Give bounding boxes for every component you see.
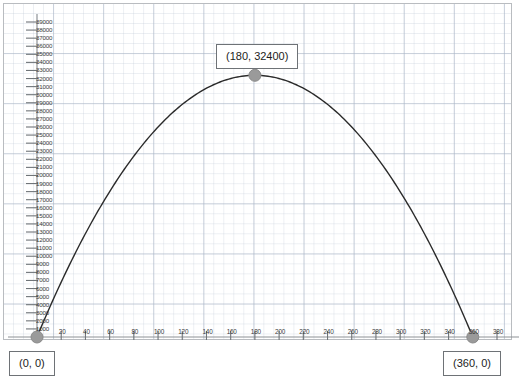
x-tick-label: 320: [420, 329, 430, 335]
y-tick-label: 12000: [36, 237, 52, 243]
x-tick-label: 280: [372, 329, 382, 335]
y-tick-label: 39000: [36, 19, 52, 25]
y-tick-label: 7000: [36, 277, 49, 283]
x-tick-label: 300: [396, 329, 406, 335]
parabola-curve: [37, 75, 473, 337]
y-tick-label: 9000: [36, 261, 49, 267]
y-tick-label: 10000: [36, 253, 52, 259]
callout-root: (360, 0): [443, 351, 501, 376]
x-tick-label: 340: [445, 329, 455, 335]
y-tick-label: 11000: [36, 245, 52, 251]
y-tick-label: 25000: [36, 132, 52, 138]
x-tick-label: 160: [227, 329, 237, 335]
y-tick-label: 6000: [36, 285, 49, 291]
x-tick-label: 140: [202, 329, 212, 335]
data-point-vertex[interactable]: [249, 69, 261, 81]
chart-canvas: 1000200030004000500060007000800090001000…: [0, 0, 528, 386]
callout-origin: (0, 0): [9, 351, 55, 376]
x-tick-label: 180: [251, 329, 261, 335]
y-tick-label: 3000: [36, 310, 49, 316]
y-tick-label: 15000: [36, 213, 52, 219]
y-tick-label: 31000: [36, 84, 52, 90]
x-tick-label: 260: [348, 329, 358, 335]
y-tick-label: 8000: [36, 269, 49, 275]
y-tick-label: 20000: [36, 172, 52, 178]
y-tick-label: 14000: [36, 221, 52, 227]
y-tick-label: 28000: [36, 108, 52, 114]
y-tick-label: 30000: [36, 92, 52, 98]
y-tick-label: 18000: [36, 189, 52, 195]
y-tick-label: 33000: [36, 67, 52, 73]
y-tick-label: 35000: [36, 51, 52, 57]
y-tick-label: 5000: [36, 294, 49, 300]
y-tick-label: 17000: [36, 197, 52, 203]
x-tick-label: 40: [83, 329, 90, 335]
x-tick-label: 20: [59, 329, 66, 335]
x-tick-label: 380: [493, 329, 503, 335]
x-tick-label: 220: [299, 329, 309, 335]
y-tick-label: 1000: [36, 326, 49, 332]
y-tick-label: 29000: [36, 100, 52, 106]
y-tick-label: 21000: [36, 164, 52, 170]
y-tick-label: 27000: [36, 116, 52, 122]
y-tick-label: 4000: [36, 302, 49, 308]
y-tick-label: 23000: [36, 148, 52, 154]
x-tick-label: 80: [131, 329, 138, 335]
y-tick-label: 36000: [36, 43, 52, 49]
y-tick-label: 26000: [36, 124, 52, 130]
x-tick-label: 60: [107, 329, 114, 335]
y-tick-label: 16000: [36, 205, 52, 211]
x-tick-label: 360: [469, 329, 479, 335]
y-tick-label: 24000: [36, 140, 52, 146]
y-tick-label: 37000: [36, 35, 52, 41]
y-tick-label: 34000: [36, 59, 52, 65]
y-tick-label: 19000: [36, 180, 52, 186]
callout-vertex: (180, 32400): [216, 44, 298, 69]
x-tick-label: 200: [275, 329, 285, 335]
y-tick-label: 13000: [36, 229, 52, 235]
x-tick-label: 240: [323, 329, 333, 335]
y-tick-label: 22000: [36, 156, 52, 162]
data-point-origin[interactable]: [31, 331, 43, 343]
y-tick-label: 2000: [36, 318, 49, 324]
y-tick-label: 32000: [36, 75, 52, 81]
x-tick-label: 120: [178, 329, 188, 335]
y-tick-label: 38000: [36, 27, 52, 33]
x-tick-label: 100: [154, 329, 164, 335]
